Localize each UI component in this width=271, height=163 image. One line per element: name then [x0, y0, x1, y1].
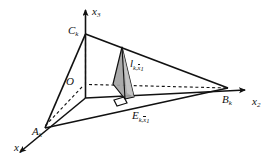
- segment-label-subscript-index: 1: [140, 65, 143, 72]
- axis-x1: [20, 98, 86, 152]
- point-label-a: Ak: [32, 126, 42, 137]
- segment-length-label: lk,x1: [130, 58, 144, 69]
- foot-point-label: Ek,x1: [132, 110, 149, 121]
- dashed-origin-to-a: [45, 87, 82, 126]
- point-label-c: Ck: [68, 25, 78, 36]
- axis-label-x3: x3: [92, 6, 100, 17]
- axis-label-x2: x2: [252, 96, 260, 107]
- point-label-origin: O: [66, 76, 74, 87]
- axis-label-x1: x1: [14, 142, 22, 153]
- foot-label-subscript-index: 1: [146, 117, 149, 124]
- point-label-b: Bk: [222, 94, 232, 105]
- dashed-origin-to-b: [89, 85, 228, 89]
- right-angle-marker: [114, 97, 127, 106]
- edge-c-to-b: [86, 34, 229, 88]
- geometry-figure: x3 x2 x1 O Ck Bk Ak lk,x1 Ek,x1: [0, 0, 271, 163]
